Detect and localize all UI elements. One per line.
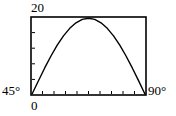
x-min-angle-label: 45° [2, 84, 20, 97]
x-max-angle-label: 90° [148, 84, 166, 97]
y-axis-ticks [32, 33, 35, 80]
plot-frame [31, 17, 146, 95]
figure-container: 20 45° 0 90° [0, 0, 176, 116]
x-origin-label: 0 [31, 99, 38, 112]
y-max-label: 20 [31, 1, 44, 14]
data-curve [32, 18, 145, 94]
x-axis-ticks [43, 91, 135, 94]
plot-svg [0, 0, 176, 116]
